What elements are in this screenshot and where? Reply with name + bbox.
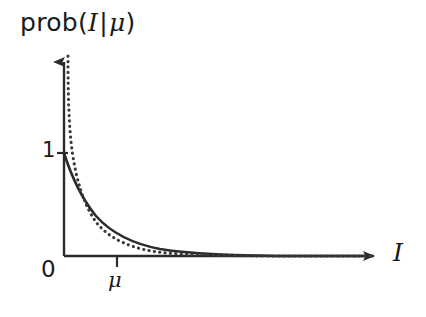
y-axis-title-variable: I bbox=[88, 8, 98, 37]
x-tick-mu-label: μ bbox=[108, 270, 122, 291]
y-axis-title-bar: | bbox=[98, 8, 109, 37]
origin-label: 0 bbox=[41, 258, 56, 281]
y-tick-1-label: 1 bbox=[42, 140, 55, 161]
solid-curve bbox=[64, 153, 372, 256]
dotted-curve bbox=[68, 56, 372, 256]
y-axis-title-prefix: prob( bbox=[20, 8, 88, 37]
y-axis-title-suffix: ) bbox=[126, 8, 136, 37]
y-axis-title: prob(I|μ) bbox=[20, 10, 136, 35]
figure-canvas: prob(I|μ) I 1 0 μ bbox=[0, 0, 426, 317]
plot-svg bbox=[0, 0, 426, 317]
x-axis-name-label: I bbox=[393, 240, 403, 265]
y-axis-title-condition: μ bbox=[109, 8, 126, 37]
